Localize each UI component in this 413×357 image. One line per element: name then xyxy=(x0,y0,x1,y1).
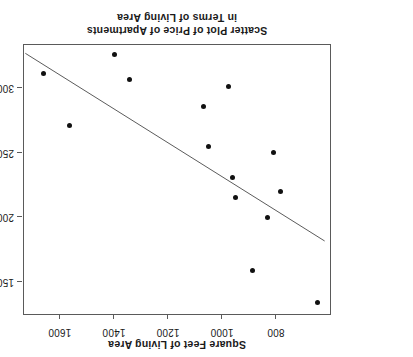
x-tick-mark xyxy=(113,314,114,319)
y-tick-label: 300,000 xyxy=(0,83,14,94)
y-tick-mark xyxy=(17,87,22,88)
x-tick-label: 1600 xyxy=(48,327,71,338)
chart-title: Scatter Plot of Price of Apartments in T… xyxy=(23,11,331,37)
data-point xyxy=(230,175,235,180)
data-point xyxy=(67,123,72,128)
x-tick-label: 1200 xyxy=(156,327,179,338)
data-point xyxy=(265,215,270,220)
data-point xyxy=(41,71,46,76)
x-tick-mark xyxy=(275,314,276,319)
x-tick-label: 1400 xyxy=(102,327,125,338)
y-tick-label: 150,000 xyxy=(0,276,14,287)
y-tick-label: 250,000 xyxy=(0,147,14,158)
chart-figure: Square Feet of Living Area Price (Canadi… xyxy=(0,0,413,357)
data-point xyxy=(226,84,231,89)
data-point xyxy=(315,300,320,305)
chart-title-line-1: Scatter Plot of Price of Apartments xyxy=(23,24,331,37)
y-tick-mark xyxy=(17,216,22,217)
data-point xyxy=(233,195,238,200)
y-tick-mark xyxy=(17,281,22,282)
data-points-layer xyxy=(24,45,330,314)
rotated-chart-container: Square Feet of Living Area Price (Canadi… xyxy=(0,0,413,357)
chart-title-line-2: in Terms of Living Area xyxy=(23,11,331,24)
x-axis-title: Square Feet of Living Area xyxy=(23,339,331,351)
y-tick-mark xyxy=(17,152,22,153)
x-tick-mark xyxy=(167,314,168,319)
x-tick-mark xyxy=(59,314,60,319)
data-point xyxy=(271,150,276,155)
y-tick-label: 200,000 xyxy=(0,212,14,223)
data-point xyxy=(250,268,255,273)
data-point xyxy=(206,144,211,149)
x-tick-label: 1000 xyxy=(210,327,233,338)
x-tick-label: 800 xyxy=(267,327,284,338)
plot-area: 8001000120014001600 150,000200,000250,00… xyxy=(23,44,331,315)
data-point xyxy=(278,189,283,194)
data-point xyxy=(127,77,132,82)
data-point xyxy=(201,104,206,109)
x-tick-mark xyxy=(221,314,222,319)
data-point xyxy=(112,52,117,57)
